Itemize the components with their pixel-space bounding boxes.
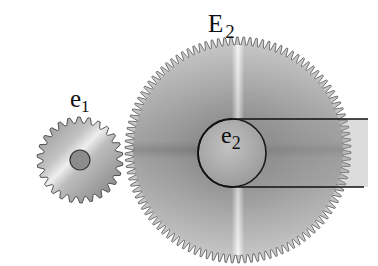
gear-e1-small [37, 117, 123, 203]
label-small-gear: e1 [70, 85, 90, 116]
label-big-gear: E2 [208, 10, 235, 42]
gear-diagram: E2 e1 e2 [0, 0, 378, 266]
